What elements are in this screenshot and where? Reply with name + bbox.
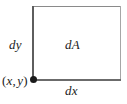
rectangle-top-edge xyxy=(32,6,121,7)
rectangle-bottom-edge xyxy=(32,79,121,81)
differential-area-diagram: dy dA dx (x, y) xyxy=(0,0,127,104)
label-dy: dy xyxy=(9,38,22,51)
label-dA: dA xyxy=(65,38,80,51)
label-point-xy: (x, y) xyxy=(2,74,28,87)
rectangle-left-edge xyxy=(32,6,34,80)
point-close-paren: ) xyxy=(23,73,28,88)
rectangle-right-edge xyxy=(120,6,121,80)
label-dx: dx xyxy=(65,84,78,97)
point-comma: , xyxy=(13,73,16,88)
origin-vertex-dot xyxy=(30,76,37,83)
